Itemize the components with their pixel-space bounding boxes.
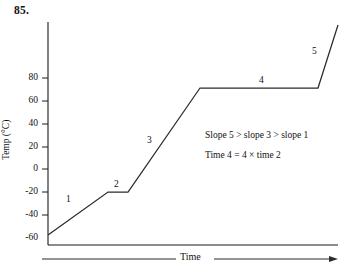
y-tick-label-neg20: -20 (4, 187, 38, 197)
annotation-slope-comparison: Slope 5 > slope 3 > slope 1 (205, 131, 308, 141)
y-tick-label-20: 20 (8, 142, 38, 152)
y-tick-label-40: 40 (8, 119, 38, 129)
heating-curve-figure: 85. 80 60 40 20 0 -20 -40 -60 Tem (0, 0, 342, 271)
annotation-time-relation: Time 4 = 4 × time 2 (205, 151, 281, 161)
y-tick-label-neg60: -60 (4, 233, 38, 243)
y-tick-label-0: 0 (8, 164, 38, 174)
y-tick-label-60: 60 (8, 96, 38, 106)
y-axis-title: Temp (°C) (2, 120, 12, 160)
y-tick-label-neg40: -40 (4, 210, 38, 220)
y-axis-ticks (42, 78, 48, 215)
time-arrowhead (329, 256, 338, 262)
x-axis-title: Time (180, 252, 201, 262)
segment-label-3: 3 (147, 136, 152, 146)
segment-label-4: 4 (259, 76, 264, 86)
y-tick-label-80: 80 (8, 73, 38, 83)
segment-label-1: 1 (66, 195, 71, 205)
segment-label-2: 2 (114, 180, 119, 190)
segment-label-5: 5 (312, 47, 317, 57)
